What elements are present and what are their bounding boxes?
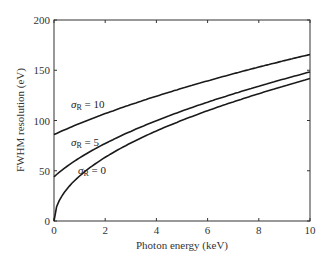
- annotations: σR = 10σR = 5σR = 0: [71, 98, 106, 178]
- y-tick-label: 200: [34, 14, 51, 26]
- x-tick-label: 10: [305, 224, 317, 236]
- x-tick-label: 2: [102, 224, 108, 236]
- x-tick-label: 8: [256, 224, 262, 236]
- x-tick-label: 6: [205, 224, 211, 236]
- y-tick-label: 100: [34, 115, 51, 127]
- x-axis-label: Photon energy (keV): [136, 239, 228, 252]
- series-annotation: σR = 10: [71, 98, 105, 112]
- y-tick-label: 0: [45, 215, 51, 227]
- chart: 0246810050100150200 Photon energy (keV) …: [0, 0, 329, 263]
- series-annotation: σR = 5: [71, 136, 99, 150]
- y-tick-label: 150: [34, 64, 51, 76]
- y-axis-label: FWHM resolution (eV): [14, 68, 27, 172]
- y-tick-label: 50: [39, 165, 51, 177]
- series-annotation: σR = 0: [78, 164, 106, 178]
- x-tick-label: 4: [154, 224, 160, 236]
- x-tick-label: 0: [51, 224, 57, 236]
- series-line: [54, 54, 310, 134]
